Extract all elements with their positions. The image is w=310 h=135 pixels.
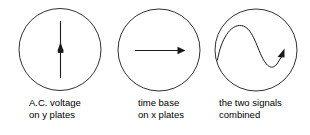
caption-line-1: the two signals [219,97,310,109]
caption-line-2: combined [219,109,310,121]
diagram-panel-time-base: time base on x plates [110,0,210,135]
diagram-panel-ac-voltage: A.C. voltage on y plates [10,0,110,135]
oscilloscope-traces-diagram: A.C. voltage on y plates time base on x … [0,0,310,135]
scope-circle-outline [215,9,297,91]
panel-caption-combined: the two signals combined [219,97,310,120]
scope-screen-combined [206,0,306,100]
scope-screen-time-base [110,0,210,100]
scope-screen-ac-voltage [10,0,110,100]
diagram-panel-combined: the two signals combined [206,0,306,135]
